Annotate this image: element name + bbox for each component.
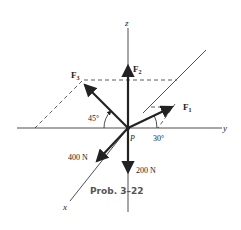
angle-45-label: 45° <box>88 114 99 123</box>
origin-label: P <box>129 134 135 143</box>
diagonal-plane-line <box>143 50 206 113</box>
angle-arc-45 <box>104 111 111 128</box>
400n-arrow <box>97 128 128 161</box>
construction-lines <box>35 80 177 128</box>
problem-caption: Prob. 3–22 <box>90 186 144 196</box>
x-axis-label: x <box>62 202 67 212</box>
400n-label: 400 N <box>68 153 88 162</box>
origin-point <box>126 126 130 130</box>
200n-label: 200 N <box>136 166 156 175</box>
force-diagram: z y x P F2 F3 F1 45° 30° 400 N 200 N Pro… <box>0 0 241 230</box>
angle-30-label: 30° <box>153 134 164 143</box>
f2-label: F2 <box>133 64 142 75</box>
z-axis-label: z <box>124 18 129 28</box>
f1-diagonal-dashed-line <box>158 104 175 128</box>
angle-arc-30 <box>154 115 157 128</box>
angle-arcs <box>104 111 157 128</box>
f1-label: F1 <box>183 102 192 113</box>
y-axis-label: y <box>222 123 227 133</box>
f3-left-dashed-line <box>35 81 82 128</box>
f3-label: F3 <box>71 70 80 81</box>
labels: z y x P F2 F3 F1 45° 30° 400 N 200 N Pro… <box>62 18 227 212</box>
